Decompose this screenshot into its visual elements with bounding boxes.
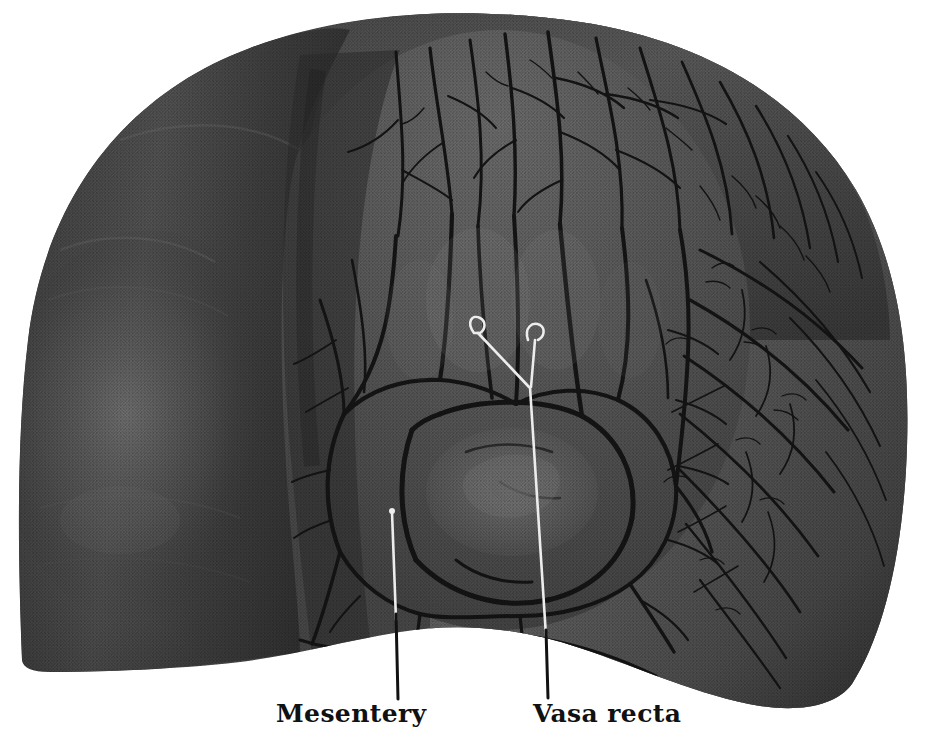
label-mesentery: Mesentery — [276, 701, 427, 726]
specimen-illustration — [0, 0, 941, 756]
leader-mesentery-dark — [396, 614, 398, 699]
label-vasa-recta: Vasa recta — [533, 701, 681, 726]
leader-vasa-recta-dark — [546, 630, 548, 698]
anatomical-figure-plate: Mesentery Vasa recta — [0, 0, 941, 756]
